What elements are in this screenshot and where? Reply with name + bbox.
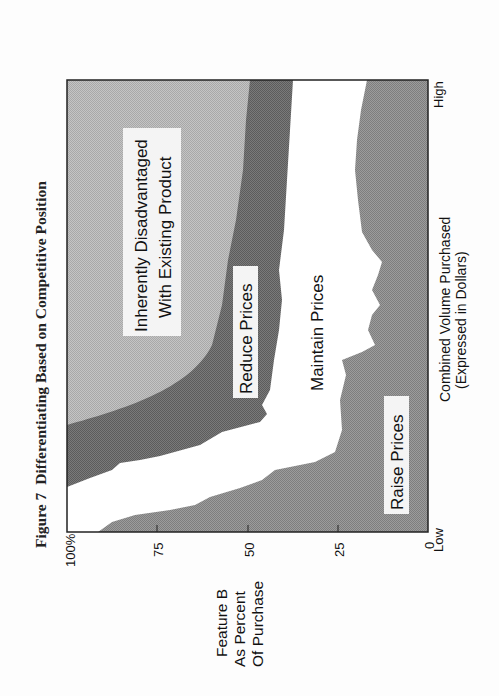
svg-text:Maintain Prices: Maintain Prices [308, 275, 327, 391]
x-high-label: High [431, 81, 446, 108]
svg-text:Of Purchase: Of Purchase [249, 581, 266, 667]
svg-text:Reduce Prices: Reduce Prices [237, 283, 256, 394]
label-raise-prices: Raise Prices [384, 396, 409, 514]
tick-label-75: 75 [151, 543, 166, 557]
figure-title: Figure 7Differentiating Based on Competi… [32, 181, 49, 548]
y-axis-ticks: 100% 75 50 25 0 [63, 533, 437, 567]
svg-text:Inherently Disadvantaged: Inherently Disadvantaged [132, 139, 151, 332]
label-maintain-prices: Maintain Prices [308, 275, 327, 391]
svg-text:Feature B: Feature B [213, 589, 230, 657]
tick-label-25: 25 [332, 543, 347, 557]
x-axis-title-line1: Combined Volume Purchased [437, 217, 453, 402]
x-axis-title-line2: (Expressed in Dollars) [453, 251, 469, 389]
x-axis: Low High Combined Volume Purchased (Expr… [431, 81, 469, 552]
svg-text:As Percent: As Percent [231, 590, 248, 667]
y-axis-title: Feature B As Percent Of Purchase [213, 581, 266, 667]
svg-text:With Existing Product: With Existing Product [156, 156, 175, 318]
tick-label-100: 100% [63, 533, 78, 567]
x-low-label: Low [431, 528, 446, 552]
label-disadvantaged: Inherently Disadvantaged With Existing P… [123, 128, 181, 336]
tick-label-50: 50 [242, 543, 257, 557]
label-reduce-prices: Reduce Prices [233, 266, 258, 398]
svg-text:Raise Prices: Raise Prices [388, 415, 407, 510]
chart-figure: Figure 7Differentiating Based on Competi… [0, 0, 499, 696]
